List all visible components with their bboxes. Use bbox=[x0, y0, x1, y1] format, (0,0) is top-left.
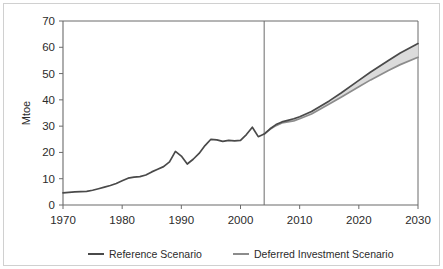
y-axis-title: Mtoe bbox=[20, 101, 32, 125]
x-tick-label: 1990 bbox=[169, 214, 195, 226]
y-tick-label: 10 bbox=[42, 173, 55, 185]
plot-area: 0102030405060701970198019902000201020202… bbox=[20, 15, 431, 260]
x-tick-label: 2030 bbox=[405, 214, 431, 226]
chart-figure: 0102030405060701970198019902000201020202… bbox=[0, 0, 443, 269]
legend-label-reference-scenario: Reference Scenario bbox=[109, 248, 202, 260]
x-tick-label: 1980 bbox=[109, 214, 135, 226]
y-tick-label: 30 bbox=[42, 120, 55, 132]
y-tick-label: 20 bbox=[42, 146, 55, 158]
x-tick-label: 2010 bbox=[287, 214, 313, 226]
y-tick-label: 40 bbox=[42, 94, 55, 106]
y-tick-label: 60 bbox=[42, 41, 55, 53]
y-tick-label: 0 bbox=[49, 199, 55, 211]
line-chart: 0102030405060701970198019902000201020202… bbox=[0, 0, 443, 269]
x-tick-label: 2000 bbox=[228, 214, 254, 226]
x-tick-label: 2020 bbox=[346, 214, 372, 226]
x-tick-label: 1970 bbox=[50, 214, 76, 226]
y-tick-label: 50 bbox=[42, 68, 55, 80]
series-line-reference-scenario bbox=[63, 44, 418, 193]
legend-label-deferred-investment-scenario: Deferred Investment Scenario bbox=[254, 248, 394, 260]
y-tick-label: 70 bbox=[42, 15, 55, 27]
